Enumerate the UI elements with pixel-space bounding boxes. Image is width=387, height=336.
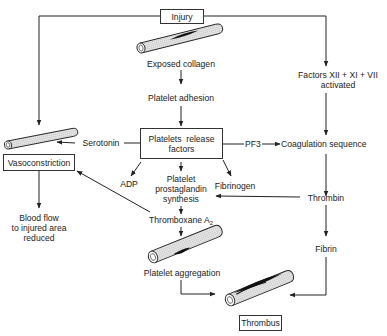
edge-fibrin-to-thrombus bbox=[290, 257, 326, 295]
platelet-aggregation-label: Platelet aggregation bbox=[137, 268, 227, 278]
thrombus-label: Thrombus bbox=[241, 318, 280, 328]
edge-release-to-fibrinogen bbox=[223, 160, 231, 176]
thromboxane-text: Thromboxane A bbox=[149, 215, 210, 225]
thrombin-label: Thrombin bbox=[302, 193, 350, 203]
thromboxane-subscript: 2 bbox=[210, 220, 213, 226]
injury-label: Injury bbox=[171, 12, 192, 22]
platelet-prostaglandin-label: Platelet prostaglandin synthesis bbox=[146, 174, 216, 204]
edge-thromboxane-to-vasoconstriction bbox=[77, 171, 150, 212]
aggregation-vessel-icon bbox=[147, 224, 225, 265]
vasoconstriction-box: Vasoconstriction bbox=[3, 154, 75, 171]
thrombus-box: Thrombus bbox=[239, 315, 282, 331]
release-label-line2: factors bbox=[169, 144, 195, 154]
fibrinogen-label: Fibrinogen bbox=[212, 181, 258, 191]
release-label-line1: Platelets release bbox=[149, 134, 215, 144]
factors-line1: Factors XII + XI + VII bbox=[290, 70, 386, 80]
factors-activated-label: Factors XII + XI + VII activated bbox=[290, 70, 386, 90]
prostaglandin-line2: prostaglandin bbox=[146, 184, 216, 194]
platelets-release-factors-box: Platelets release factors bbox=[140, 128, 223, 159]
pf3-label: PF3 bbox=[244, 139, 262, 149]
prostaglandin-line1: Platelet bbox=[146, 174, 216, 184]
adp-label: ADP bbox=[116, 179, 142, 189]
injured-vessel-icon bbox=[136, 23, 224, 54]
edge-release-to-adp bbox=[131, 162, 141, 176]
exposed-collagen-label: Exposed collagen bbox=[143, 59, 219, 69]
edge-injury-to-vasoconstriction bbox=[39, 16, 160, 125]
bloodflow-line1: Blood flow bbox=[4, 213, 74, 223]
edge-thrombin-to-prostaglandin bbox=[216, 196, 300, 197]
edge-serotonin-to-vessel bbox=[57, 142, 75, 143]
thrombus-vessel-icon bbox=[223, 268, 295, 307]
edge-aggregation-to-thrombus bbox=[181, 280, 215, 294]
bloodflow-line2: to injured area bbox=[4, 223, 74, 233]
coagulation-sequence-label: Coagulation sequence bbox=[281, 139, 377, 149]
vasoconstriction-label: Vasoconstriction bbox=[8, 158, 70, 168]
platelet-adhesion-label: Platelet adhesion bbox=[143, 93, 219, 103]
bloodflow-line3: reduced bbox=[4, 233, 74, 243]
injury-box: Injury bbox=[160, 9, 204, 24]
constricted-vessel-icon bbox=[4, 128, 79, 150]
prostaglandin-line3: synthesis bbox=[146, 194, 216, 204]
blood-flow-label: Blood flow to injured area reduced bbox=[4, 213, 74, 243]
fibrin-label: Fibrin bbox=[310, 244, 342, 254]
serotonin-label: Serotonin bbox=[78, 138, 124, 148]
factors-line2: activated bbox=[290, 80, 386, 90]
edge-injury-to-factors bbox=[203, 16, 326, 66]
thromboxane-label: Thromboxane A2 bbox=[143, 215, 219, 228]
